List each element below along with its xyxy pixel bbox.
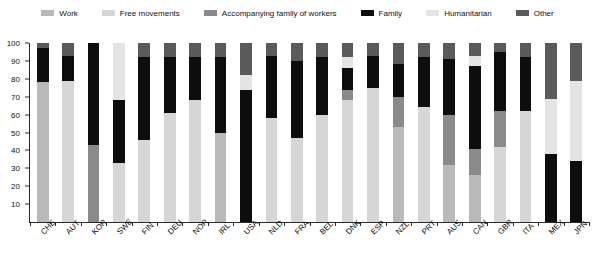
bar-segment-FRA-free-movements [291, 138, 303, 222]
bar-segment-DNK-accompanying-family-of-workers [342, 90, 354, 101]
y-tick-label-60: 60 [0, 110, 20, 119]
x-tick-mark-0 [30, 222, 31, 226]
legend-swatch-free_movements [102, 10, 115, 16]
y-tick-label-100: 100 [0, 39, 20, 48]
legend-item-family[interactable]: Family [361, 9, 403, 18]
plot-area: 100908070605040302010 [0, 28, 595, 228]
bar-SWE[interactable] [113, 43, 125, 222]
bar-segment-AUS-family [443, 59, 455, 114]
bar-segment-PRT-family [418, 57, 430, 107]
bar-segment-KOR-accompanying-family-of-workers [88, 145, 100, 222]
bar-BEL[interactable] [316, 43, 328, 222]
bar-stack-AUT [62, 43, 74, 222]
legend-item-other[interactable]: Other [516, 9, 554, 18]
bar-DNK[interactable] [342, 43, 354, 222]
legend-swatch-family [361, 10, 374, 16]
bar-USA[interactable] [240, 43, 252, 222]
bar-NOR[interactable] [189, 43, 201, 222]
x-axis-labels: CHEAUTKORSWEFINDEUNORIRLUSANLDFRABELDNKE… [0, 228, 595, 258]
bar-segment-JPN-humanitarian [570, 81, 582, 162]
stacked-bar-chart: WorkFree movementsAccompanying family of… [0, 0, 595, 258]
bar-segment-BEL-family [316, 57, 328, 114]
bar-segment-MEX-humanitarian [545, 99, 557, 154]
bar-segment-DNK-other [342, 43, 354, 57]
bar-segment-CAN-other [469, 43, 481, 56]
bar-FIN[interactable] [138, 43, 150, 222]
bar-AUT[interactable] [62, 43, 74, 222]
bar-segment-PRT-other [418, 43, 430, 57]
bar-MEX[interactable] [545, 43, 557, 222]
bar-segment-KOR-family [88, 43, 100, 145]
bar-segment-USA-family [240, 90, 252, 222]
x-tick-mark-5 [157, 222, 158, 226]
bar-segment-USA-other [240, 43, 252, 75]
bar-KOR[interactable] [88, 43, 100, 222]
bar-DEU[interactable] [164, 43, 176, 222]
bar-stack-DEU [164, 43, 176, 222]
y-tick-label-40: 40 [0, 146, 20, 155]
bar-segment-ESP-other [367, 43, 379, 56]
y-tick-label-90: 90 [0, 56, 20, 65]
bar-segment-FIN-family [138, 57, 150, 139]
bar-segment-AUS-other [443, 43, 455, 59]
bar-segment-AUT-family [62, 56, 74, 81]
bar-stack-CAN [469, 43, 481, 222]
bar-segment-GBR-other [494, 43, 506, 52]
bar-segment-AUS-work [443, 165, 455, 222]
bar-segment-SWE-family [113, 100, 125, 163]
bar-stack-ITA [520, 43, 532, 222]
bar-segment-BEL-other [316, 43, 328, 57]
bar-NLD[interactable] [266, 43, 278, 222]
bar-segment-CAN-family [469, 66, 481, 148]
legend-swatch-other [516, 10, 529, 16]
legend-label-family: Family [379, 9, 403, 18]
bar-stack-AUS [443, 43, 455, 222]
bar-segment-ESP-free-movements [367, 88, 379, 222]
bar-IRL[interactable] [215, 43, 227, 222]
bar-segment-AUT-free-movements [62, 81, 74, 222]
bar-segment-NZL-family [393, 64, 405, 96]
legend-item-free_movements[interactable]: Free movements [102, 9, 180, 18]
bar-segment-CAN-work [469, 175, 481, 222]
y-tick-label-70: 70 [0, 92, 20, 101]
bar-ITA[interactable] [520, 43, 532, 222]
bar-segment-ITA-free-movements [520, 111, 532, 222]
legend-swatch-work [41, 10, 54, 16]
bar-segment-JPN-family [570, 161, 582, 222]
bar-stack-ESP [367, 43, 379, 222]
bar-CAN[interactable] [469, 43, 481, 222]
bar-segment-SWE-free-movements [113, 163, 125, 222]
bar-segment-IRL-work [215, 133, 227, 223]
legend-item-accompanying_family[interactable]: Accompanying family of workers [204, 9, 337, 18]
bar-segment-NLD-other [266, 43, 278, 56]
bar-segment-JPN-other [570, 43, 582, 81]
bar-segment-DNK-humanitarian [342, 57, 354, 68]
bar-segment-NZL-accompanying-family-of-workers [393, 97, 405, 127]
bar-GBR[interactable] [494, 43, 506, 222]
bar-segment-FIN-other [138, 43, 150, 57]
bar-NZL[interactable] [393, 43, 405, 222]
y-tick-label-50: 50 [0, 128, 20, 137]
bar-segment-DEU-free-movements [164, 113, 176, 222]
legend-item-work[interactable]: Work [41, 9, 78, 18]
bar-segment-MEX-other [545, 43, 557, 98]
bar-ESP[interactable] [367, 43, 379, 222]
legend-label-other: Other [534, 9, 554, 18]
bar-segment-NZL-work [393, 127, 405, 222]
bar-segment-GBR-family [494, 52, 506, 111]
bar-PRT[interactable] [418, 43, 430, 222]
legend-item-humanitarian[interactable]: Humanitarian [426, 9, 492, 18]
bar-JPN[interactable] [570, 43, 582, 222]
x-tick-mark-20 [538, 222, 539, 226]
bar-AUS[interactable] [443, 43, 455, 222]
bar-stack-KOR [88, 43, 100, 222]
bar-CHE[interactable] [37, 43, 49, 222]
x-tick-mark-8 [233, 222, 234, 226]
bar-segment-PRT-free-movements [418, 107, 430, 222]
chart-legend: WorkFree movementsAccompanying family of… [0, 0, 595, 26]
bar-segment-ITA-family [520, 57, 532, 111]
bar-FRA[interactable] [291, 43, 303, 222]
bar-segment-NZL-other [393, 43, 405, 64]
bar-segment-DEU-family [164, 57, 176, 112]
bar-segment-USA-humanitarian [240, 75, 252, 89]
